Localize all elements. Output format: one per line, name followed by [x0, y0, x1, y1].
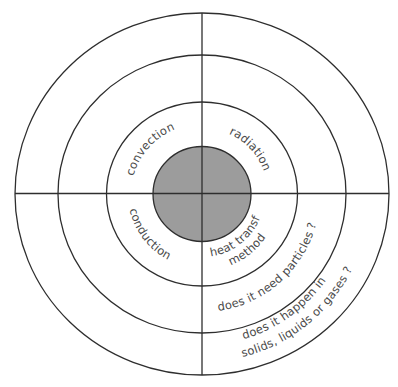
heat-transfer-wheel-diagram: convection radiation conduction heat tra… — [0, 0, 398, 387]
